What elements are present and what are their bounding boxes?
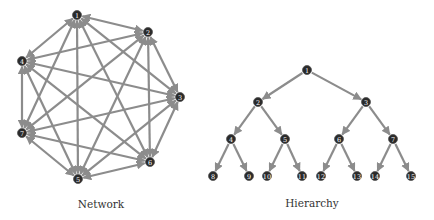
svg-text:6: 6 [337,136,341,144]
network-edges [22,16,178,177]
network-edge [81,18,175,93]
hierarchy-node-12: 12 [317,172,326,181]
svg-text:4: 4 [20,58,24,66]
hierarchy-edges [215,73,408,171]
svg-text:5: 5 [76,176,80,184]
svg-text:5: 5 [283,136,287,144]
hierarchy-node-6: 6 [335,135,344,144]
network-edge [27,98,174,132]
hierarchy-node-15: 15 [407,172,416,181]
network-node-3: 3 [176,93,185,102]
network-node-4: 4 [18,57,27,66]
diagram-canvas: 1234567 123456789101112131415 [0,0,434,220]
hierarchy-node-7: 7 [389,135,398,144]
hierarchy-nodes: 123456789101112131415 [209,66,416,181]
network-edge [27,62,174,96]
svg-text:9: 9 [247,173,251,181]
svg-text:2: 2 [146,29,150,37]
hierarchy-edge [215,144,228,171]
hierarchy-edge [342,106,363,134]
network-edge [27,33,142,60]
svg-text:6: 6 [148,159,152,167]
hierarchy-edge [269,144,282,171]
hierarchy-edge [261,106,282,134]
hierarchy-edge [369,106,390,134]
network-edge [82,16,142,30]
network-node-5: 5 [74,175,83,184]
hierarchy-edge [234,106,255,134]
hierarchy-edge [263,73,303,99]
hierarchy-node-1: 1 [303,66,312,75]
svg-text:1: 1 [305,67,309,75]
network-node-6: 6 [146,158,155,167]
svg-text:8: 8 [211,173,215,181]
hierarchy-node-3: 3 [362,98,371,107]
network-edge [83,163,144,177]
hierarchy-node-13: 13 [353,172,362,181]
svg-text:13: 13 [353,173,361,181]
hierarchy-node-14: 14 [371,172,380,181]
svg-text:1: 1 [75,12,79,20]
hierarchy-edge [323,144,336,171]
svg-text:4: 4 [229,136,233,144]
hierarchy-node-11: 11 [298,172,307,181]
hierarchy-edge [312,73,361,100]
network-node-2: 2 [144,28,153,37]
hierarchy-edge [287,144,299,171]
hierarchy-node-5: 5 [281,135,290,144]
svg-text:2: 2 [256,99,260,107]
network-edge [26,64,145,158]
network-node-1: 1 [73,11,82,20]
hierarchy-edge [233,144,246,171]
hierarchy-node-2: 2 [254,98,263,107]
network-nodes: 1234567 [18,11,185,184]
svg-text:11: 11 [298,173,306,181]
hierarchy-edge [341,144,354,171]
hierarchy-node-8: 8 [209,172,218,181]
network-caption: Network [71,198,131,210]
network-edge [77,20,78,173]
hierarchy-caption: Hierarchy [277,197,347,209]
svg-text:3: 3 [364,99,368,107]
svg-text:3: 3 [178,94,182,102]
hierarchy-node-4: 4 [227,135,236,144]
svg-text:15: 15 [407,173,415,181]
svg-text:7: 7 [391,136,395,144]
network-node-7: 7 [18,129,27,138]
hierarchy-node-9: 9 [245,172,254,181]
hierarchy-node-10: 10 [263,172,272,181]
svg-text:7: 7 [20,130,24,138]
hierarchy-edge [377,144,390,171]
svg-text:14: 14 [371,173,379,181]
hierarchy-edge [395,144,408,171]
network-edge [148,37,150,156]
svg-text:10: 10 [263,173,271,181]
svg-text:12: 12 [317,173,325,181]
